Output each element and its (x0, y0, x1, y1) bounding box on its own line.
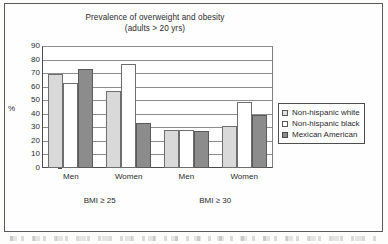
y-axis-title: % (8, 104, 15, 113)
legend-item: Mexican American (282, 129, 360, 140)
chart-legend: Non-hispanic whiteNon-hispanic blackMexi… (278, 103, 365, 144)
category-labels: MenWomenMenWomen (42, 172, 273, 181)
legend-label: Non-hispanic black (292, 119, 360, 128)
y-axis-tick-label: 0 (22, 164, 40, 172)
bmi-group-label: BMI ≥ 30 (158, 196, 274, 205)
y-axis-tick-label: 70 (22, 69, 40, 77)
bar (237, 102, 252, 168)
bar (121, 64, 136, 168)
legend-label: Non-hispanic white (292, 108, 360, 117)
chart-page: Prevalence of overweight and obesity (ad… (0, 0, 388, 244)
y-axis-tick-label: 20 (22, 137, 40, 145)
group-labels: BMI ≥ 25BMI ≥ 30 (42, 196, 273, 205)
y-axis-tick-label: 80 (22, 56, 40, 64)
bar (164, 130, 179, 168)
chart-subtitle: (adults > 20 yrs) (0, 23, 310, 34)
legend-swatch-icon (282, 132, 288, 138)
bar (78, 69, 93, 168)
legend-item: Non-hispanic white (282, 107, 360, 118)
legend-label: Mexican American (292, 130, 357, 139)
y-axis-tick-label: 50 (22, 96, 40, 104)
bar-group (100, 46, 158, 168)
category-label: Women (215, 172, 273, 181)
bmi-group-label: BMI ≥ 25 (42, 196, 158, 205)
scan-artifact (10, 236, 376, 241)
y-axis-tick (58, 168, 62, 169)
category-label: Women (100, 172, 158, 181)
bar-group (158, 46, 216, 168)
y-axis-tick-label: 60 (22, 83, 40, 91)
legend-swatch-icon (282, 110, 288, 116)
y-axis-tick-label: 40 (22, 110, 40, 118)
chart-title: Prevalence of overweight and obesity (ad… (0, 12, 310, 34)
y-axis-labels: 0102030405060708090 (18, 46, 40, 168)
bar (194, 131, 209, 168)
bar (222, 126, 237, 168)
legend-item: Non-hispanic black (282, 118, 360, 129)
legend-swatch-icon (282, 121, 288, 127)
y-axis-tick-label: 30 (22, 123, 40, 131)
bar (106, 91, 121, 168)
plot-wrapper (42, 46, 273, 168)
category-label: Men (42, 172, 100, 181)
y-axis-tick-label: 90 (22, 42, 40, 50)
bar (252, 115, 267, 168)
bar (63, 83, 78, 168)
category-label: Men (158, 172, 216, 181)
bar (48, 74, 63, 168)
y-axis-tick-label: 10 (22, 150, 40, 158)
chart-title-line1: Prevalence of overweight and obesity (85, 13, 224, 22)
bar (179, 130, 194, 168)
bar-group (215, 46, 273, 168)
bar-group (42, 46, 100, 168)
bar (136, 123, 151, 168)
bar-groups (42, 46, 273, 168)
